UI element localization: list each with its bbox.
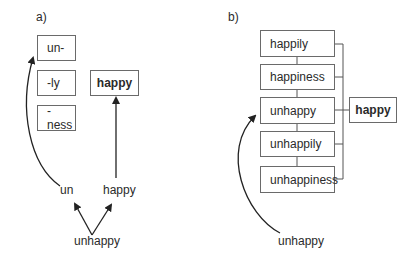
affix-box-un: un- (37, 35, 76, 61)
input-word-a: unhappy (74, 234, 120, 248)
root-box-happy-b: happy (349, 97, 397, 123)
word-box-unhappiness: unhappiness (260, 166, 335, 193)
panel-b-label: b) (228, 10, 239, 24)
word-box-happily: happily (260, 30, 335, 57)
root-box-happy-a: happy (90, 70, 139, 96)
affix-box-ness: -ness (37, 105, 76, 131)
part-happy: happy (103, 183, 136, 197)
word-box-unhappy: unhappy (260, 97, 335, 124)
affix-box-ly: -ly (37, 70, 76, 96)
arrow-split-left (75, 204, 92, 235)
input-word-b: unhappy (278, 234, 324, 248)
arrow-split-right (92, 205, 111, 235)
word-box-unhappily: unhappily (260, 131, 335, 157)
root-connector (335, 44, 349, 179)
word-box-happiness: happiness (260, 64, 335, 90)
panel-a-label: a) (36, 10, 47, 24)
part-un: un (60, 183, 73, 197)
